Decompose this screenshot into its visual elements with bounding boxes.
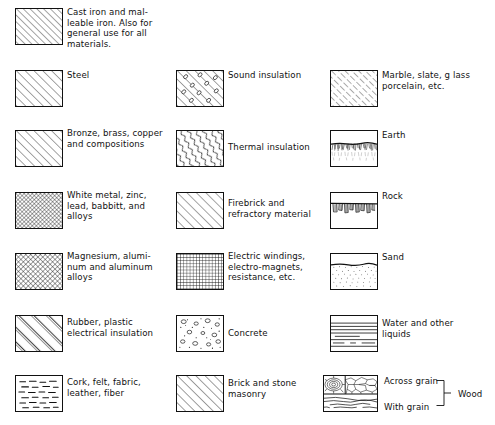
swatch-cast-iron — [15, 8, 63, 45]
swatch-earth — [330, 130, 378, 167]
wood-across-grain-label: Across grain — [384, 376, 438, 387]
swatch-sand — [330, 253, 378, 290]
wood-with-grain-label: With grain — [384, 402, 429, 413]
wood-group-label: Wood — [458, 389, 482, 400]
legend-label-rock: Rock — [382, 191, 403, 202]
legend-label-rubber: Rubber, plastic electrical insulation — [67, 317, 153, 338]
swatch-sound-insulation — [176, 70, 224, 107]
swatch-rock — [330, 192, 378, 229]
swatch-electric-windings — [176, 253, 224, 290]
legend-label-cork: Cork, felt, fabric, leather, fiber — [67, 377, 141, 398]
legend-label-earth: Earth — [382, 130, 406, 141]
legend-label-white-metal: White metal, zinc, lead, babbitt, and al… — [67, 190, 146, 222]
swatch-firebrick — [176, 192, 224, 229]
legend-label-electric-windings: Electric windings, electro-magnets, resi… — [228, 251, 305, 283]
swatch-cork — [15, 375, 63, 412]
legend-label-firebrick: Firebrick and refractory material — [228, 198, 311, 219]
swatch-steel — [15, 70, 63, 107]
legend-label-marble: Marble, slate, g lass porcelain, etc. — [382, 70, 470, 91]
legend-label-magnesium: Magnesium, alumi- num and aluminum alloy… — [67, 251, 153, 283]
swatch-magnesium — [15, 253, 63, 290]
swatch-white-metal — [15, 192, 63, 229]
legend-label-brick-masonry: Brick and stone masonry — [228, 378, 297, 399]
legend-label-sound-insulation: Sound insulation — [228, 70, 301, 81]
swatch-rubber — [15, 315, 63, 352]
swatch-bronze — [15, 130, 63, 167]
legend-label-bronze: Bronze, brass, copper and compositions — [67, 128, 163, 149]
legend-label-cast-iron: Cast iron and mal- leable iron. Also for… — [67, 7, 152, 49]
materials-legend: Cast iron and mal- leable iron. Also for… — [0, 0, 495, 425]
legend-label-concrete: Concrete — [228, 328, 268, 339]
wood-bracket — [436, 378, 460, 408]
figure-caption-cropped — [6, 419, 206, 425]
swatch-wood — [323, 375, 378, 412]
swatch-concrete — [176, 315, 224, 352]
legend-label-steel: Steel — [67, 70, 89, 81]
swatch-water — [330, 315, 378, 352]
legend-label-thermal-insulation: Thermal insulation — [228, 142, 310, 153]
legend-label-sand: Sand — [382, 252, 404, 263]
swatch-thermal-insulation — [176, 130, 224, 167]
swatch-marble — [330, 70, 378, 107]
swatch-brick-masonry — [176, 375, 224, 412]
legend-label-water: Water and other liquids — [382, 318, 453, 339]
